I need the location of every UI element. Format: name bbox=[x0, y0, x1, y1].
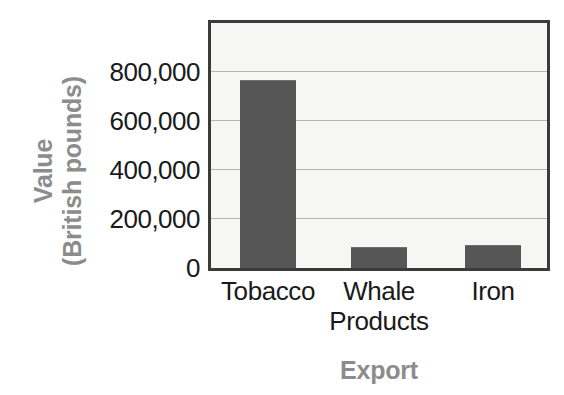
y-axis-tick-label: 600,000 bbox=[110, 108, 200, 134]
x-axis-tick-label: WhaleProducts bbox=[329, 276, 428, 336]
y-axis-title: Value (British pounds) bbox=[27, 46, 89, 296]
x-axis-tick-label-line: Tobacco bbox=[221, 276, 315, 306]
y-axis-title-line-2: (British pounds) bbox=[58, 76, 87, 266]
y-axis-tick-label: 800,000 bbox=[110, 59, 200, 85]
x-axis-tick-label-line: Iron bbox=[471, 276, 514, 306]
x-axis-tick-labels: TobaccoWhaleProductsIron bbox=[208, 276, 550, 340]
bar bbox=[240, 80, 296, 268]
x-axis-tick-label-line: Whale bbox=[329, 276, 428, 306]
bar bbox=[351, 247, 407, 268]
bar-series bbox=[211, 23, 547, 268]
bar-chart-figure: Value (British pounds) 0200,000400,00060… bbox=[0, 0, 564, 395]
x-axis-tick-label-line: Products bbox=[329, 306, 428, 336]
bar bbox=[465, 245, 521, 268]
x-axis-title: Export bbox=[208, 356, 550, 384]
x-axis-tick-label: Iron bbox=[471, 276, 514, 306]
x-axis-tick-label: Tobacco bbox=[221, 276, 315, 306]
y-axis-tick-label: 0 bbox=[186, 255, 200, 281]
y-axis-tick-labels: 0200,000400,000600,000800,000 bbox=[92, 14, 200, 282]
y-axis-title-line-1: Value bbox=[29, 139, 58, 203]
y-axis-tick-label: 200,000 bbox=[110, 206, 200, 232]
plot-area bbox=[208, 20, 550, 271]
y-axis-tick-label: 400,000 bbox=[110, 157, 200, 183]
